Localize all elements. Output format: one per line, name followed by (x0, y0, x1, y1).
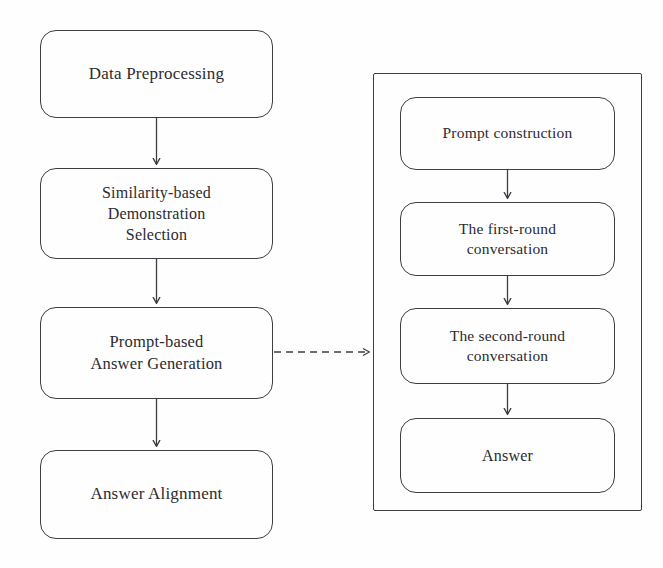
node-label: Prompt-based Answer Generation (80, 331, 232, 375)
node-the-second-round-conversation[interactable]: The second-round conversation (400, 308, 615, 384)
node-similarity-based-demonstration-selection[interactable]: Similarity-based Demonstration Selection (40, 168, 273, 259)
node-label: Similarity-based Demonstration Selection (92, 182, 221, 245)
node-prompt-based-answer-generation[interactable]: Prompt-based Answer Generation (40, 307, 273, 399)
node-label: Data Preprocessing (79, 63, 234, 85)
node-label: Answer Alignment (80, 483, 232, 505)
node-answer[interactable]: Answer (400, 418, 615, 493)
node-answer-alignment[interactable]: Answer Alignment (40, 450, 273, 539)
node-label: The first-round conversation (449, 219, 566, 260)
node-label: Answer (472, 445, 543, 466)
flowchart-diagram: Data Preprocessing Similarity-based Demo… (0, 0, 663, 568)
node-prompt-construction[interactable]: Prompt construction (400, 97, 615, 170)
node-label: The second-round conversation (440, 326, 576, 367)
node-data-preprocessing[interactable]: Data Preprocessing (40, 30, 273, 118)
node-label: Prompt construction (433, 123, 583, 143)
node-the-first-round-conversation[interactable]: The first-round conversation (400, 202, 615, 276)
